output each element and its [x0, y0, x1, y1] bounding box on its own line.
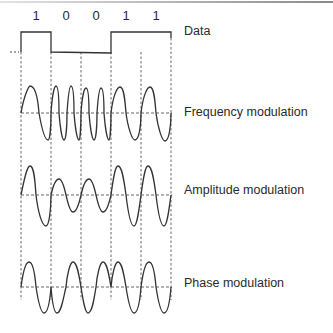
- data-signal: [10, 32, 171, 53]
- pm-waveform: [21, 262, 171, 313]
- am-waveform: [21, 166, 171, 226]
- modulation-diagram: [0, 0, 333, 333]
- fm-waveform: [21, 86, 171, 141]
- bit-boundaries: [21, 38, 171, 300]
